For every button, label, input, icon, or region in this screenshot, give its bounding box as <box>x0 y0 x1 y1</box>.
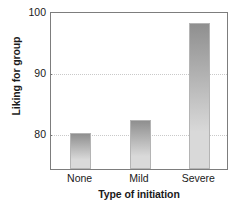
bar-severe <box>189 23 210 169</box>
y-tick-label-100: 100 <box>20 7 46 18</box>
tick-mark-80 <box>50 135 52 136</box>
bar-none <box>70 133 91 169</box>
x-tick-label-mild: Mild <box>109 172 169 185</box>
y-tick-label-90: 90 <box>20 68 46 79</box>
y-axis-tick-labels: 100 90 80 <box>18 0 46 204</box>
x-axis-tick-labels: None Mild Severe <box>50 172 228 186</box>
tick-mark-90 <box>50 74 52 75</box>
x-axis-title: Type of initiation <box>50 188 228 200</box>
x-tick-label-severe: Severe <box>168 172 228 185</box>
bar-chart-figure: Liking for group 100 90 80 None Mild Sev… <box>0 0 238 204</box>
plot-area <box>50 12 228 170</box>
y-tick-label-80: 80 <box>20 129 46 140</box>
bar-mild <box>130 120 151 169</box>
x-tick-label-none: None <box>50 172 110 185</box>
